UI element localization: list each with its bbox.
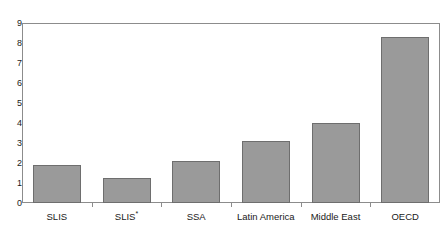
x-axis-tick-label: SLIS xyxy=(22,211,92,222)
bar xyxy=(33,165,81,203)
x-axis-tick-mark xyxy=(301,203,302,207)
x-axis-tick-label: SLIS* xyxy=(92,211,162,222)
x-axis-tick-mark xyxy=(231,203,232,207)
bar xyxy=(242,141,290,203)
bars-layer xyxy=(22,23,440,203)
bar xyxy=(172,161,220,203)
bar xyxy=(312,123,360,203)
x-axis-tick-label: Latin America xyxy=(231,211,301,222)
bar xyxy=(103,178,151,203)
x-axis-tick-label: Middle East xyxy=(301,211,371,222)
x-axis-tick-mark xyxy=(161,203,162,207)
x-axis: SLISSLIS*SSALatin AmericaMiddle EastOECD xyxy=(22,203,440,236)
x-axis-tick-label: OECD xyxy=(370,211,440,222)
x-axis-tick-mark xyxy=(92,203,93,207)
x-axis-tick-label: SSA xyxy=(161,211,231,222)
y-axis: 0123456789 xyxy=(0,0,22,236)
bar-chart: 0123456789 SLISSLIS*SSALatin AmericaMidd… xyxy=(0,0,448,236)
bar xyxy=(381,37,429,203)
x-axis-tick-mark xyxy=(370,203,371,207)
